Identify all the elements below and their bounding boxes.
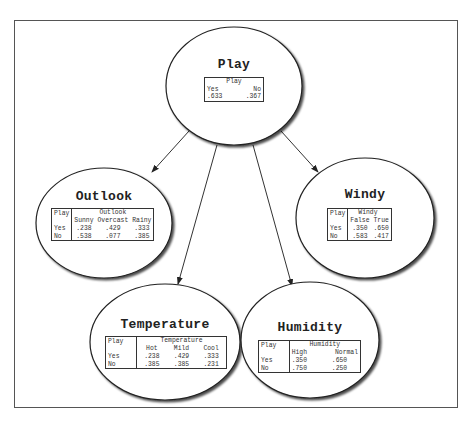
column-header: High — [289, 349, 319, 357]
probability-table: Play Yes No Outlook Sunny Overcast Rainy… — [51, 208, 154, 241]
parent-name: Play — [54, 210, 69, 217]
column-header: True — [372, 217, 392, 225]
row-label: Yes — [330, 225, 342, 232]
column-header: Mild — [167, 345, 196, 353]
column-header: No — [234, 86, 264, 94]
edge-play-humidity — [253, 145, 292, 286]
probability-table: Play Yes No Temperature Hot Mild Cool .2… — [105, 336, 227, 369]
parent-label: Play Yes No — [259, 341, 290, 373]
parent-label: Play Yes No — [328, 209, 348, 241]
parent-name: Play — [330, 210, 345, 217]
node-windy: Windy Play Yes No Windy False True .350 … — [296, 158, 434, 278]
parent-label: Play Yes No — [106, 337, 137, 369]
table-cell: .633 — [205, 93, 235, 101]
column-header: Yes — [205, 86, 235, 94]
row-label: No — [261, 365, 269, 372]
node-title: Play — [166, 57, 302, 72]
row-label: Yes — [108, 353, 120, 360]
probability-table: Play Yes No Humidity High Normal .350 .6… — [258, 340, 361, 373]
table-cell: .429 — [167, 353, 196, 361]
parent-name: Play — [261, 342, 276, 349]
table-header: Humidity — [289, 341, 360, 349]
table-cell: .238 — [72, 225, 96, 233]
node-title: Outlook — [36, 189, 172, 204]
row-label: Yes — [54, 225, 66, 232]
table-cell: .333 — [196, 353, 226, 361]
table-cell: .077 — [96, 233, 131, 241]
table-cell: .350 — [348, 225, 372, 233]
table-cell: .429 — [96, 225, 131, 233]
table-cell: .350 — [289, 357, 319, 365]
table-cell: .583 — [348, 233, 372, 241]
node-humidity: Humidity Play Yes No Humidity High Norma… — [241, 282, 379, 398]
table-cell: .538 — [72, 233, 96, 241]
table-cell: .750 — [289, 365, 319, 373]
node-title: Humidity — [241, 320, 379, 335]
column-header: False — [348, 217, 372, 225]
node-outlook: Outlook Play Yes No Outlook Sunny Overca… — [36, 168, 172, 278]
column-header: Rainy — [130, 217, 154, 225]
table-cell: .417 — [372, 233, 392, 241]
column-header: Overcast — [96, 217, 131, 225]
row-label: No — [330, 233, 338, 240]
table-cell: .385 — [130, 233, 154, 241]
table-cell: .367 — [234, 93, 264, 101]
node-temperature: Temperature Play Yes No Temperature Hot … — [90, 284, 240, 400]
table-cell: .385 — [137, 361, 167, 369]
column-header: Normal — [319, 349, 360, 357]
parent-name: Play — [108, 338, 123, 345]
column-header: Sunny — [72, 217, 96, 225]
table-header: Temperature — [137, 337, 227, 345]
table-cell: .250 — [319, 365, 360, 373]
column-header: Cool — [196, 345, 226, 353]
row-label: No — [54, 233, 62, 240]
table-cell: .238 — [137, 353, 167, 361]
node-title: Windy — [296, 187, 434, 202]
parent-label: Play Yes No — [52, 209, 72, 241]
table-header: Outlook — [72, 209, 154, 217]
table-cell: .231 — [196, 361, 226, 369]
table-cell: .650 — [319, 357, 360, 365]
probability-table: Play Yes No Windy False True .350 .650 .… — [327, 208, 392, 241]
probability-table: Play Yes No .633 .367 — [204, 77, 264, 102]
table-cell: .333 — [130, 225, 154, 233]
row-label: No — [108, 361, 116, 368]
column-header: Hot — [137, 345, 167, 353]
table-header: Windy — [348, 209, 392, 217]
table-cell: .385 — [167, 361, 196, 369]
node-title: Temperature — [90, 317, 240, 332]
table-cell: .650 — [372, 225, 392, 233]
row-label: Yes — [261, 357, 273, 364]
edge-play-temperature — [178, 145, 217, 284]
table-header: Play — [205, 78, 264, 86]
node-play: Play Play Yes No .633 .367 — [166, 27, 302, 146]
